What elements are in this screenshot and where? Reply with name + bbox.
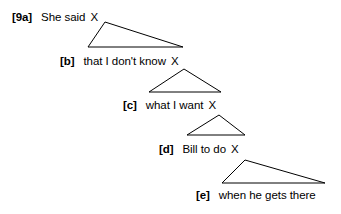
- clause-placeholder-d: X: [231, 143, 239, 155]
- clause-text-d: Bill to do: [182, 143, 226, 155]
- clause-placeholder-c: X: [208, 99, 216, 111]
- clause-tag-e: [e]: [196, 189, 210, 201]
- triangle-d-to-e: [222, 160, 325, 183]
- clause-embedding-figure: [9a]She saidX [b]that I don't knowX [c]w…: [0, 0, 341, 214]
- clause-text-9a: She said: [41, 11, 85, 23]
- clause-tag-d: [d]: [159, 143, 173, 155]
- clause-tag-b: [b]: [60, 55, 74, 67]
- clause-line-b: [b]that I don't knowX: [60, 52, 179, 68]
- clause-tag-c: [c]: [123, 99, 137, 111]
- triangle-c-to-d: [187, 115, 245, 135]
- clause-line-d: [d]Bill to doX: [159, 140, 239, 156]
- clause-text-b: that I don't know: [83, 55, 166, 67]
- clause-line-e: [e]when he gets there: [196, 186, 316, 202]
- clause-line-9a: [9a]She saidX: [12, 8, 98, 24]
- triangle-b-to-c: [149, 69, 221, 92]
- clause-tag-9a: [9a]: [12, 11, 32, 23]
- clause-placeholder-9a: X: [90, 11, 98, 23]
- triangle-a-to-b: [88, 22, 183, 47]
- clause-text-e: when he gets there: [219, 189, 316, 201]
- clause-placeholder-b: X: [171, 55, 179, 67]
- clause-line-c: [c]what I wantX: [123, 96, 216, 112]
- clause-text-c: what I want: [146, 99, 204, 111]
